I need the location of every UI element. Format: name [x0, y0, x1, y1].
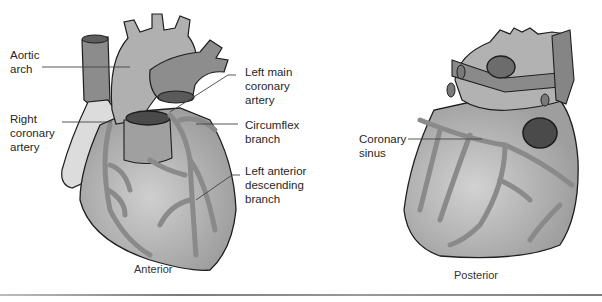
- coronary-circulation-figure: Aortic arch Right coronary artery Left m…: [0, 0, 602, 302]
- view-label-posterior: Posterior: [454, 269, 498, 281]
- posterior-heart: [404, 28, 578, 258]
- label-right-coronary-artery: Right coronary artery: [10, 112, 55, 154]
- label-aortic-arch: Aortic arch: [10, 48, 39, 76]
- label-left-anterior-descending-branch: Left anterior descending branch: [245, 164, 306, 206]
- view-label-anterior: Anterior: [134, 263, 173, 275]
- label-coronary-sinus: Coronary sinus: [359, 132, 406, 160]
- figure-divider-rule: [0, 294, 602, 296]
- label-circumflex-branch: Circumflex branch: [245, 118, 299, 146]
- label-left-main-coronary-artery: Left main coronary artery: [245, 65, 292, 107]
- anterior-heart: [62, 14, 236, 270]
- heart-illustrations: [0, 0, 602, 302]
